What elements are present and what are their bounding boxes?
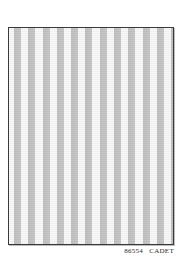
swatch-name: CADET <box>149 247 174 255</box>
fabric-swatch-striped <box>8 27 174 245</box>
swatch-caption: 86554 CADET <box>124 247 174 255</box>
swatch-code: 86554 <box>124 247 143 255</box>
